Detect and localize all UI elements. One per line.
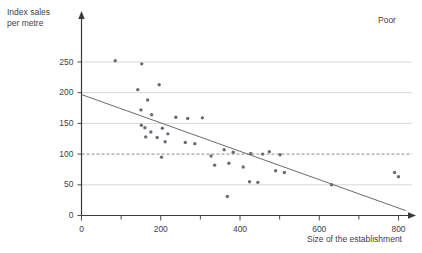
- data-point: [283, 171, 286, 174]
- ticks-group: [78, 62, 399, 221]
- data-point: [144, 135, 147, 138]
- data-point: [150, 113, 153, 116]
- x-tick-label: 200: [146, 224, 176, 234]
- data-point: [140, 62, 143, 65]
- data-point: [222, 148, 225, 151]
- data-point: [226, 195, 229, 198]
- data-point: [184, 141, 187, 144]
- data-point: [163, 140, 166, 143]
- data-points-group: [113, 59, 400, 198]
- data-point: [248, 180, 251, 183]
- data-point: [256, 181, 259, 184]
- y-tick-label: 100: [48, 149, 74, 159]
- y-tick-label: 0: [48, 210, 74, 220]
- data-point: [136, 88, 139, 91]
- data-point: [143, 126, 146, 129]
- data-point: [330, 183, 333, 186]
- y-axis-arrow: [78, 11, 84, 19]
- data-point: [232, 151, 235, 154]
- scatter-chart: Index sales per metre Poor Size of the e…: [0, 0, 422, 253]
- data-point: [140, 124, 143, 127]
- data-point: [213, 163, 216, 166]
- y-tick-label: 250: [48, 57, 74, 67]
- axes-group: [78, 11, 416, 219]
- data-point: [160, 155, 163, 158]
- data-point: [149, 130, 152, 133]
- data-point: [393, 171, 396, 174]
- x-tick-label: 600: [304, 224, 334, 234]
- y-axis-title: Index sales per metre: [7, 7, 50, 28]
- x-tick-label: 0: [67, 224, 97, 234]
- data-point: [249, 152, 252, 155]
- data-point: [241, 165, 244, 168]
- x-tick-label: 800: [384, 224, 414, 234]
- data-point: [161, 127, 164, 130]
- data-point: [261, 152, 264, 155]
- y-tick-label: 200: [48, 87, 74, 97]
- regression-trendline: [82, 95, 406, 211]
- data-point: [278, 153, 281, 156]
- data-point: [174, 116, 177, 119]
- x-tick-label: 400: [225, 224, 255, 234]
- data-point: [166, 132, 169, 135]
- x-axis-arrow: [408, 212, 416, 218]
- data-point: [113, 59, 116, 62]
- data-point: [155, 136, 158, 139]
- chart-annotation-label: Poor: [378, 15, 396, 25]
- x-axis-title: Size of the establishment: [307, 234, 402, 245]
- data-point: [139, 108, 142, 111]
- trendline-group: [82, 95, 406, 211]
- data-point: [193, 142, 196, 145]
- y-tick-label: 150: [48, 118, 74, 128]
- data-point: [146, 98, 149, 101]
- data-point: [227, 162, 230, 165]
- y-tick-label: 50: [48, 179, 74, 189]
- data-point: [157, 83, 160, 86]
- data-point: [209, 154, 212, 157]
- data-point: [397, 175, 400, 178]
- data-point: [201, 116, 204, 119]
- data-point: [268, 150, 271, 153]
- gridlines-group: [82, 62, 413, 185]
- data-point: [186, 117, 189, 120]
- data-point: [274, 169, 277, 172]
